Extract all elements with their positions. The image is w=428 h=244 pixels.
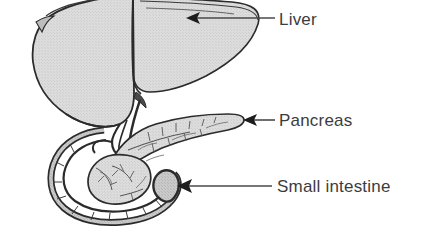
label-pancreas: Pancreas <box>279 112 352 129</box>
duodenum-marking <box>126 211 128 219</box>
pancreas-head <box>88 155 151 204</box>
duodenum-marking <box>70 144 74 152</box>
duodenum-marking <box>56 162 64 166</box>
liver-organ <box>33 0 259 127</box>
anatomy-diagram: Liver Pancreas Small intestine <box>0 0 428 244</box>
label-small-intestine: Small intestine <box>277 178 391 195</box>
anatomy-illustration <box>0 0 428 244</box>
pancreas-uncinate-edge <box>146 155 164 161</box>
label-liver: Liver <box>279 11 317 28</box>
duodenum-terminal-tip <box>153 170 178 201</box>
